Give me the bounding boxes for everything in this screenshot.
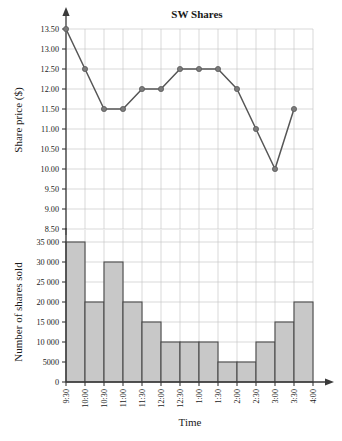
y-tick-label: 15 000: [36, 318, 59, 327]
x-tick-label: 3:30: [290, 389, 299, 404]
data-point: [291, 106, 296, 111]
price-chart-y-axis-title: Share price ($): [12, 87, 25, 153]
x-tick-label: 11:30: [138, 389, 147, 407]
y-tick-label: 30 000: [36, 258, 59, 267]
y-tick-label: 11.00: [41, 125, 59, 134]
bar: [123, 302, 142, 382]
y-tick-label: 25 000: [36, 278, 59, 287]
data-point: [139, 86, 144, 91]
y-tick-label: 13.00: [41, 45, 59, 54]
y-tick-label: 11.50: [41, 105, 59, 114]
bar: [66, 242, 85, 382]
y-tick-label: 0: [55, 378, 59, 387]
y-tick-label: 10.00: [41, 165, 59, 174]
x-tick-label: 10:00: [81, 389, 90, 408]
y-tick-label: 12.50: [41, 65, 59, 74]
y-tick-label: 9.50: [45, 185, 59, 194]
data-point: [158, 86, 163, 91]
y-tick-label: 35 000: [36, 238, 59, 247]
sw-shares-figure: SW Shares 8.509.009.5010.0010.5011.0011.…: [0, 0, 342, 441]
y-tick-label: 8.50: [45, 225, 59, 234]
y-tick-label: 13.50: [41, 25, 59, 34]
y-tick-label: 12.00: [41, 85, 59, 94]
bar: [218, 362, 237, 382]
shares-chart-x-axis-title: Time: [179, 416, 202, 428]
bar: [199, 342, 218, 382]
x-tick-label: 2:30: [252, 389, 261, 404]
x-tick-label: 3:00: [271, 389, 280, 404]
bar: [256, 342, 275, 382]
y-tick-label: 20 000: [36, 298, 59, 307]
data-point: [177, 66, 182, 71]
x-tick-label: 1:00: [195, 389, 204, 404]
x-tick-label: 2:00: [233, 389, 242, 404]
data-point: [63, 26, 68, 31]
x-tick-label: 12:00: [157, 389, 166, 408]
y-tick-label: 9.00: [45, 205, 59, 214]
bar: [275, 322, 294, 382]
data-point: [215, 66, 220, 71]
bar: [161, 342, 180, 382]
data-point: [253, 126, 258, 131]
data-point: [82, 66, 87, 71]
x-tick-label: 12:30: [176, 389, 185, 408]
shares-chart-y-axis-title: Number of shares sold: [12, 262, 24, 362]
y-tick-label: 10.50: [41, 145, 59, 154]
chart-page: SW Shares 8.509.009.5010.0010.5011.0011.…: [0, 0, 342, 441]
data-point: [272, 166, 277, 171]
x-tick-label: 11:00: [119, 389, 128, 407]
bar: [180, 342, 199, 382]
data-point: [120, 106, 125, 111]
bar: [85, 302, 104, 382]
bar: [104, 262, 123, 382]
data-point: [101, 106, 106, 111]
x-tick-label: 10:30: [100, 389, 109, 408]
data-point: [234, 86, 239, 91]
bar: [237, 362, 256, 382]
bar: [142, 322, 161, 382]
y-tick-label: 10 000: [36, 338, 59, 347]
data-point: [196, 66, 201, 71]
y-tick-label: 5000: [43, 358, 59, 367]
x-tick-label: 9:30: [62, 389, 71, 404]
bar: [294, 302, 313, 382]
x-tick-label: 1:30: [214, 389, 223, 404]
x-tick-label: 4:00: [309, 389, 318, 404]
chart-title: SW Shares: [171, 8, 223, 20]
